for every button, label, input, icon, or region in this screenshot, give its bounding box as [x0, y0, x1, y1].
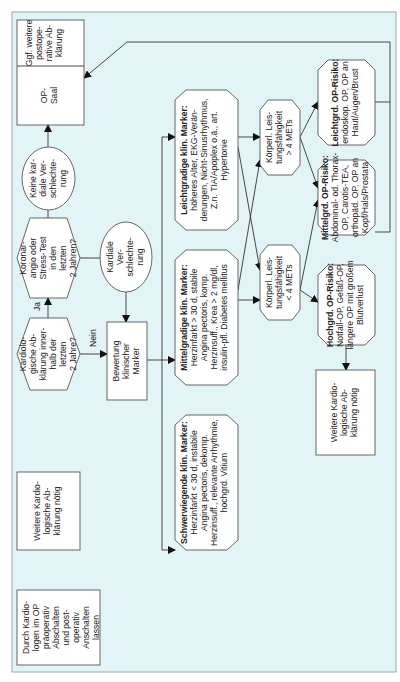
node-weitere-abklaerung-rechts: Weitere Kardio-logische Ab-klärung nötig [316, 370, 375, 455]
node-leichtgrd-op-risiko: Leichtgrd. OP-Risiko:endoskop. OP, OP an… [318, 58, 375, 146]
node-mittelgradige-marker: Mittelgradige klin. Marker:Herzinfarkt >… [175, 250, 238, 385]
svg-text:Leichtgrd. OP-Risiko:endoskop.: Leichtgrd. OP-Risiko:endoskop. OP, OP an… [330, 58, 360, 146]
edge-label-nein: Nein [88, 329, 98, 347]
flowchart-rotated: Ja Nein Durch Kardio-logen im OPpräopera… [0, 0, 400, 682]
node-mittelgrd-op-risiko: Mittelgrd. OP-Risiko:Abdominal- od. Thor… [318, 153, 375, 243]
svg-text:Weitere Kardio-logische Ab-klä: Weitere Kardio-logische Ab-klärung nötig [329, 383, 359, 443]
svg-text:Mittelgrd. OP-Risiko:Abdominal: Mittelgrd. OP-Risiko:Abdominal- od. Thor… [320, 153, 370, 243]
node-leistung-unter-4-mets: Körperl. Leis-tungsfähigkeit< 4 METs [260, 245, 300, 320]
node-leichtgradige-marker: Leichtgradige klin. Marker:höheres Alter… [175, 90, 238, 230]
node-op-saal: OP-Saal Ggf. weiterepostope-rative Ab-kl… [17, 20, 84, 125]
node-kardiale-verschlechterung: KardialeVer-schlechte-rung [100, 222, 152, 292]
node-schwerwiegende-marker: Schwerwiegende klin. Marker:Herzinfarkt … [175, 415, 238, 550]
node-koronarangio: Koronar-angio oderStress-Testin denletzt… [17, 218, 80, 298]
flowchart-canvas: Ja Nein Durch Kardio-logen im OPpräopera… [0, 0, 400, 682]
node-kardiologische-abklaerung: Kardiolo-gische Ab-klärung inner-halb de… [17, 318, 80, 390]
node-durch-kardiologen: Durch Kardio-logen im OPpräoperativAbsch… [17, 590, 101, 665]
node-hochgrd-op-risiko: Hochgrd. OP-Risiko:Notfall-OP, Gefäß-OP,… [318, 260, 375, 349]
svg-text:Weitere Kardio-logische Ab-klä: Weitere Kardio-logische Ab-klärung nötig [32, 481, 62, 541]
node-leistung-ueber-4-mets: Körperl. Leis-tungsfähigkeit> 4 METs [260, 100, 300, 175]
edge-label-ja: Ja [32, 302, 42, 311]
node-weitere-abklaerung-links: Weitere Kardio-logische Ab-klärung nötig [17, 472, 80, 550]
svg-text:OP-Saal: OP-Saal [39, 87, 59, 104]
node-keine-kardiale-verschlechterung: Keine kar-diale Ver-schlechte-rung [22, 147, 75, 210]
svg-text:Mittelgradige klin. Marker:Her: Mittelgradige klin. Marker:Herzinfarkt >… [179, 264, 229, 371]
node-bewertung-klinischer-marker: BewertungklinischerMarker [107, 322, 147, 400]
